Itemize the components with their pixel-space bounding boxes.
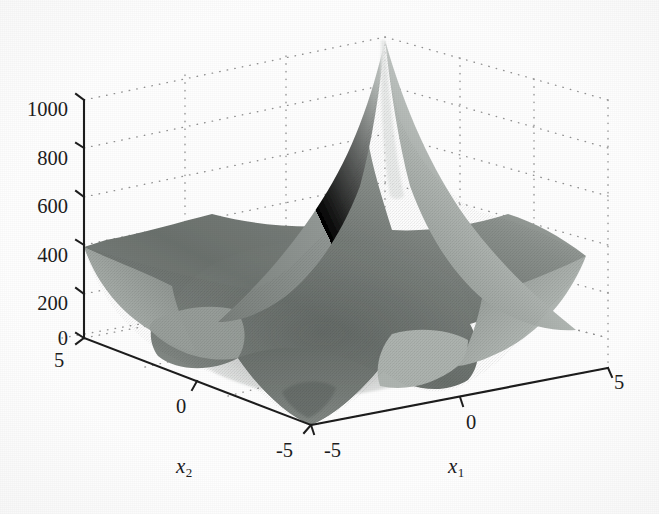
surface-plot-svg: [0, 0, 659, 514]
z-tick-label-400: 400: [0, 245, 68, 266]
x1-tick-label-minus5: -5: [324, 440, 341, 461]
z-tick-label-0: 0: [0, 328, 68, 349]
x2-tick-label-minus5: -5: [276, 440, 293, 461]
x2-tick-label-5: 5: [54, 350, 64, 371]
z-tick-label-1000: 1000: [0, 99, 68, 120]
x2-axis-title: x2: [176, 456, 192, 479]
x1-axis-title: x1: [448, 456, 464, 479]
x2-axis-title-base: x: [176, 454, 185, 478]
x1-axis-title-sub: 1: [457, 465, 464, 480]
x2-axis-title-sub: 2: [185, 465, 192, 480]
z-tick-label-800: 800: [0, 148, 68, 169]
x1-tick-label-0: 0: [466, 412, 476, 433]
x1-tick-label-5: 5: [614, 372, 624, 393]
x1-axis-title-base: x: [448, 454, 457, 478]
z-tick-label-200: 200: [0, 293, 68, 314]
x2-tick-label-0: 0: [176, 396, 186, 417]
z-tick-label-600: 600: [0, 196, 68, 217]
figure-canvas: 1000 800 600 400 200 0 5 0 -5 -5 0 5 x2 …: [0, 0, 659, 514]
